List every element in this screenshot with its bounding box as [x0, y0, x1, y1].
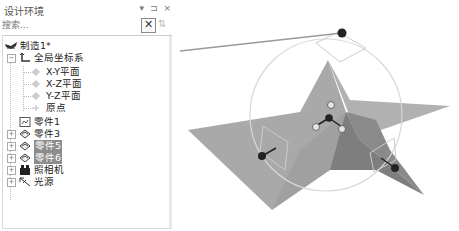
part-icon: [19, 141, 31, 151]
expand-toggle[interactable]: +: [7, 178, 16, 187]
clear-search-button[interactable]: ✕: [141, 18, 156, 33]
plane-icon: [31, 79, 43, 89]
node-label: 制造1*: [20, 40, 51, 52]
scene-tree: 制造1* − 全局坐标系 X-Y平面 X-Z平面 Y-Z平面 原点: [2, 35, 172, 229]
node-label: X-Z平面: [46, 78, 82, 90]
panel-title-buttons: ▾ ⊐ ×: [139, 3, 171, 13]
close-icon[interactable]: ×: [163, 3, 171, 13]
node-label: 光源: [34, 176, 54, 188]
node-label: X-Y平面: [46, 66, 80, 78]
workshop-icon: [5, 41, 17, 51]
expand-toggle[interactable]: +: [7, 154, 16, 163]
expand-toggle[interactable]: +: [7, 142, 16, 151]
tree-node-part5[interactable]: + 零件5: [7, 140, 62, 152]
panel-title: 设计环境: [4, 3, 44, 18]
node-label: 零件3: [34, 128, 60, 140]
star-model[interactable]: [180, 0, 459, 231]
pivot-handle-up[interactable]: [328, 102, 335, 109]
3d-viewport[interactable]: [180, 0, 459, 231]
search-options-icon[interactable]: ⇅: [158, 18, 166, 29]
pin-icon[interactable]: ⊐: [150, 3, 158, 13]
node-label: 照相机: [34, 164, 64, 176]
tree-node-part1[interactable]: 零件1: [19, 116, 60, 128]
camera-icon: [19, 165, 31, 175]
search-input[interactable]: [2, 18, 138, 32]
node-label: 原点: [46, 102, 66, 114]
axis-handle-top[interactable]: [338, 29, 347, 38]
pivot-handle-right[interactable]: [339, 126, 346, 133]
dropdown-icon[interactable]: ▾: [139, 3, 144, 13]
node-label-selected: 零件5: [34, 140, 62, 152]
plane-icon: [31, 67, 43, 77]
tree-node-origin[interactable]: 原点: [31, 102, 66, 114]
tree-node-yz-plane[interactable]: Y-Z平面: [31, 90, 81, 102]
tree-node-root[interactable]: 制造1*: [5, 40, 51, 52]
tree-node-camera[interactable]: + 照相机: [7, 164, 64, 176]
axis-handle-right[interactable]: [391, 164, 399, 172]
node-label: Y-Z平面: [46, 90, 81, 102]
tree-node-xy-plane[interactable]: X-Y平面: [31, 66, 80, 78]
part-image-icon: [19, 117, 31, 127]
expand-toggle[interactable]: +: [7, 130, 16, 139]
axis-handle-left[interactable]: [258, 152, 266, 160]
search-row: ✕ ⇅: [0, 17, 175, 35]
node-label-selected: 零件6: [34, 152, 62, 164]
node-label: 全局坐标系: [34, 52, 84, 64]
node-label: 零件1: [34, 116, 60, 128]
tree-node-xz-plane[interactable]: X-Z平面: [31, 78, 82, 90]
origin-icon: [31, 103, 43, 113]
collapse-toggle[interactable]: −: [7, 54, 16, 63]
tree-node-coord-system[interactable]: − 全局坐标系: [7, 52, 84, 64]
plane-icon: [31, 91, 43, 101]
part-icon: [19, 153, 31, 163]
axis-icon: [19, 53, 31, 63]
tree-node-part6[interactable]: + 零件6: [7, 152, 62, 164]
tree-node-part3[interactable]: + 零件3: [7, 128, 60, 140]
tree-scrollbar[interactable]: [169, 36, 172, 228]
light-icon: [19, 177, 31, 187]
part-icon: [19, 129, 31, 139]
tree-node-light[interactable]: + 光源: [7, 176, 54, 188]
pivot-handle-left[interactable]: [313, 124, 320, 131]
pivot-center[interactable]: [325, 114, 333, 122]
expand-toggle[interactable]: +: [7, 166, 16, 175]
design-environment-panel: 设计环境 ▾ ⊐ × ✕ ⇅ 制造1* − 全局坐标: [0, 0, 175, 231]
